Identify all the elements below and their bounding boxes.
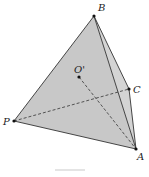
label-b: B <box>97 2 105 13</box>
label-p: P <box>2 116 10 127</box>
label-a: A <box>136 151 144 162</box>
point-o-prime <box>77 75 80 78</box>
figure-caption-placeholder <box>55 169 85 171</box>
label-c: C <box>133 84 141 95</box>
label-o-prime: O' <box>74 64 85 75</box>
point-b <box>92 14 95 17</box>
point-c <box>127 87 130 90</box>
point-p <box>12 119 15 122</box>
tetrahedron-diagram: B O' C P A <box>0 0 149 177</box>
